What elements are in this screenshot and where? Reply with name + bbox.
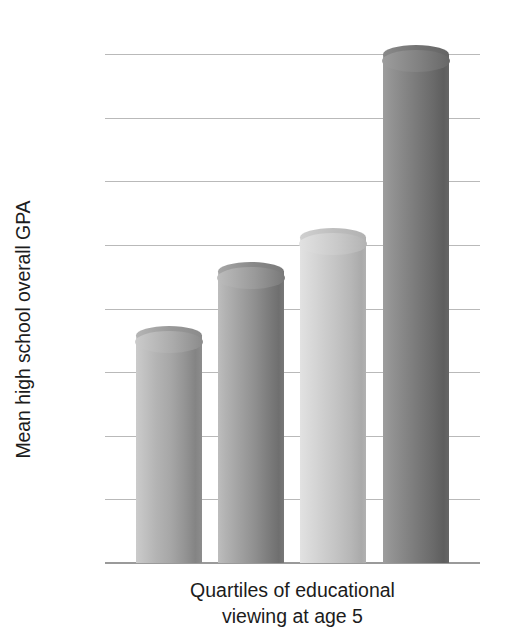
bar-quartile-4-cap — [383, 45, 449, 64]
bar-quartile-4-cap-highlight — [382, 50, 451, 72]
y-axis-title-label: Mean high school overall GPA — [12, 95, 35, 565]
bar-quartile-3[interactable] — [300, 228, 366, 563]
gpa-bar-chart: Mean high school overall GPA 2.8 2.7 2.6… — [0, 0, 509, 632]
bar-quartile-2-body — [218, 271, 284, 563]
bar-quartile-4[interactable] — [383, 45, 449, 563]
bar-quartile-1-body — [136, 335, 202, 563]
bar-quartile-1-cap — [136, 326, 202, 345]
bar-quartile-1-cap-highlight — [135, 331, 204, 353]
plot-area: 2.8 2.7 2.6 2.5 2.4 2.3 2.2 2.1 2.0 — [105, 54, 480, 563]
bar-quartile-4-body — [383, 54, 449, 563]
x-axis-title-line-2: viewing at age 5 — [105, 604, 480, 630]
bar-quartile-3-body — [300, 237, 366, 563]
bar-quartile-2-cap — [218, 262, 284, 281]
x-axis-title-line-1: Quartiles of educational — [105, 578, 480, 604]
bar-quartile-1[interactable] — [136, 326, 202, 563]
bar-quartile-2-cap-highlight — [217, 267, 286, 289]
bar-quartile-3-cap — [300, 228, 366, 247]
x-axis-title: Quartiles of educational viewing at age … — [105, 578, 480, 629]
bars-layer — [105, 54, 480, 563]
bar-quartile-2[interactable] — [218, 262, 284, 563]
bar-quartile-3-cap-highlight — [299, 233, 368, 255]
